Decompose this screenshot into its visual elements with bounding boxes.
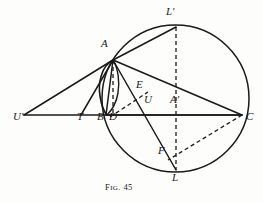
geometry-figure: U' T B D A E U A' C L' F L FIG. 45 bbox=[0, 0, 263, 202]
point-label-B: B bbox=[97, 111, 104, 122]
point-label-U-prime: U' bbox=[13, 111, 23, 122]
small-circle bbox=[99, 60, 113, 115]
point-label-U: U bbox=[144, 94, 152, 105]
point-label-A-prime: A' bbox=[170, 94, 179, 105]
line-T-A bbox=[81, 60, 113, 115]
line-A-C bbox=[113, 60, 242, 115]
point-label-D: D bbox=[109, 111, 117, 122]
figure-caption: FIG. 45 bbox=[105, 183, 133, 192]
line-A-B bbox=[106, 60, 113, 115]
caption-suffix: . 45 bbox=[118, 182, 132, 192]
point-label-L-prime: L' bbox=[166, 6, 174, 17]
point-label-F: F bbox=[158, 145, 165, 156]
point-label-C: C bbox=[246, 111, 253, 122]
solid-lines-group bbox=[24, 27, 242, 170]
figure-canvas bbox=[0, 0, 263, 202]
point-label-T: T bbox=[77, 111, 83, 122]
line-C-F-dashed bbox=[168, 115, 242, 160]
point-label-A: A bbox=[101, 38, 108, 49]
point-label-E: E bbox=[136, 79, 143, 90]
point-label-L: L bbox=[172, 172, 178, 183]
